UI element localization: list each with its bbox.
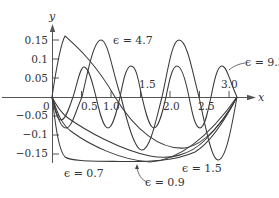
arrowhead-eps-0.9-icon bbox=[135, 164, 139, 169]
x-tick-label: 2.0 bbox=[163, 100, 180, 112]
y-axis-arrow-icon bbox=[50, 24, 55, 32]
y-tick-label: −0.15 bbox=[16, 147, 48, 159]
curve-initial bbox=[52, 36, 237, 148]
label-eps-4.7: ϵ = 4.7 bbox=[113, 34, 153, 47]
x-tick-label: 0.5 bbox=[81, 100, 98, 112]
label-eps-0.9: ϵ = 0.9 bbox=[145, 176, 185, 189]
label-eps-9.3: ϵ = 9.3 bbox=[245, 56, 279, 69]
y-tick-label: 0.15 bbox=[25, 34, 48, 46]
curves bbox=[52, 36, 237, 162]
y-tick-label: −0.1 bbox=[23, 128, 49, 140]
label-eps-1.5: ϵ = 1.5 bbox=[182, 162, 222, 175]
x-tick-label: 1.5 bbox=[139, 78, 156, 90]
arrow-eps-9.3-icon bbox=[229, 63, 245, 70]
x-axis-label: x bbox=[258, 91, 265, 104]
x-tick-label: 3.0 bbox=[221, 78, 238, 90]
label-eps-0.7: ϵ = 0.7 bbox=[64, 167, 104, 180]
y-axis-label: y bbox=[48, 10, 56, 23]
chart: y x 0.15 0.1 0.05 −0.05 −0.1 −0.15 0 0.5… bbox=[0, 0, 279, 198]
x-axis-arrow-icon bbox=[247, 95, 256, 100]
x-tick-label: 0 bbox=[43, 100, 50, 112]
x-ticks bbox=[82, 91, 230, 98]
y-tick-label: 0.1 bbox=[31, 53, 48, 65]
y-tick-label: 0.05 bbox=[25, 72, 48, 84]
